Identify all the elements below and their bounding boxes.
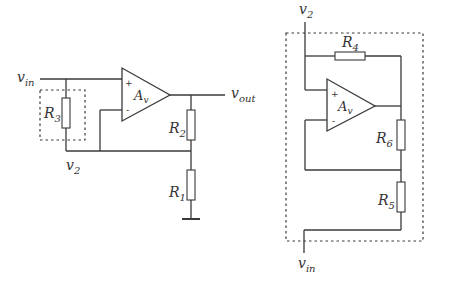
resistor-r5 <box>397 182 405 212</box>
r4-label: R4 <box>341 34 359 53</box>
left-circuit: vin R3 + - Av v2 vout R2 R1 <box>17 68 256 219</box>
resistor-r3 <box>62 98 70 128</box>
right-opamp-minus: - <box>332 116 335 126</box>
left-v2-label: v2 <box>66 157 80 176</box>
left-vin-label: vin <box>17 69 35 88</box>
left-opamp-gain-label: Av <box>133 88 148 105</box>
r1-label: R1 <box>168 184 186 203</box>
left-opamp-plus: + <box>125 78 133 88</box>
resistor-r1 <box>187 170 195 200</box>
resistor-r6 <box>397 120 405 150</box>
right-vin-label: vin <box>298 255 316 274</box>
left-opamp-minus: - <box>126 105 129 115</box>
right-opamp-plus: + <box>331 89 339 99</box>
circuit-diagram: vin R3 + - Av v2 vout R2 R1 <box>0 0 449 285</box>
r6-label: R6 <box>375 130 394 149</box>
left-vout-label: vout <box>231 85 256 104</box>
resistor-r2 <box>187 110 195 140</box>
r5-label: R5 <box>377 192 395 211</box>
right-circuit: v2 R4 + - Av R6 R5 vin <box>286 1 423 274</box>
right-opamp-gain-label: Av <box>337 99 352 116</box>
resistor-r4 <box>335 52 365 60</box>
r3-label: R3 <box>43 105 61 124</box>
right-v2-label: v2 <box>299 1 313 20</box>
r2-label: R2 <box>168 120 186 139</box>
